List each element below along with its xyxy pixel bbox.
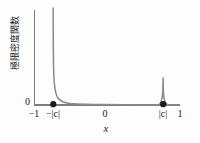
limit-density-function-plot: 0 −1 −|c| 0 |c| 1 x 極限密度関数 <box>0 0 200 143</box>
x-tick-label-minus-one: −1 <box>26 108 42 119</box>
y-axis-title: 極限密度関数 <box>8 4 21 82</box>
x-tick-label-abs-c: |c| <box>154 108 172 119</box>
x-tick-label-minus-abs-c: −|c| <box>42 108 64 119</box>
right-spike-curve <box>158 78 178 105</box>
right-atom-marker <box>160 101 166 107</box>
y-tick-label-0: 0 <box>20 96 30 107</box>
x-tick-label-one: 1 <box>173 108 187 119</box>
x-tick-label-zero: 0 <box>100 108 110 119</box>
density-curve <box>53 8 158 105</box>
left-atom-marker <box>50 101 56 107</box>
x-axis-title: x <box>88 122 124 134</box>
